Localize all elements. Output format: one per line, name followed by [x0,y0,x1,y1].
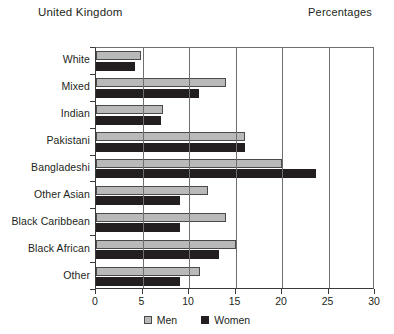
x-axis-tick-label: 5 [139,295,145,307]
chart-legend: Men Women [0,309,394,331]
bar-women [96,62,135,71]
bar-men [96,240,236,249]
bar-group [96,182,373,209]
bar-women [96,223,180,232]
category-label: Pakistani [0,134,90,146]
legend-item-women: Women [201,314,250,326]
category-label: Mixed [0,80,90,92]
category-label: Bangladeshi [0,161,90,173]
category-label: Black Caribbean [0,215,90,227]
legend-swatch-men-icon [144,316,152,324]
bar-men [96,78,226,87]
bar-women [96,250,219,259]
legend-label-men: Men [157,314,177,326]
bar-group [96,209,373,236]
bar-men [96,132,245,141]
x-axis-tick [328,289,329,294]
bar-women [96,196,180,205]
gridline [189,48,190,288]
bar-women [96,169,316,178]
bar-men [96,267,200,276]
plot-area [95,47,374,289]
x-axis-tick [374,289,375,294]
x-axis-tick-label: 0 [92,295,98,307]
category-label: Other Asian [0,188,90,200]
bar-group [96,129,373,156]
category-label: Black African [0,242,90,254]
x-axis-tick-label: 25 [322,295,334,307]
x-axis-tick [235,289,236,294]
legend-item-men: Men [144,314,177,326]
bar-group [96,156,373,183]
bar-group [96,48,373,75]
bar-rows [96,48,373,288]
x-axis-tick [95,289,96,294]
x-axis-tick-label: 20 [275,295,287,307]
bar-group [96,102,373,129]
bar-women [96,143,245,152]
value-axis: 051015202530 [95,289,374,311]
bar-women [96,116,161,125]
bar-men [96,51,141,60]
bar-women [96,277,180,286]
bar-group [96,263,373,290]
category-label: Indian [0,107,90,119]
category-axis-labels: WhiteMixedIndianPakistaniBangladeshiOthe… [0,47,90,289]
bar-women [96,89,199,98]
x-axis-tick [281,289,282,294]
x-axis-tick [188,289,189,294]
bar-men [96,105,163,114]
bar-men [96,186,208,195]
x-axis-tick-label: 15 [229,295,241,307]
category-label: Other [0,269,90,281]
x-axis-tick-label: 30 [368,295,380,307]
gridline [282,48,283,288]
legend-swatch-women-icon [201,316,209,324]
gridline [329,48,330,288]
bar-group [96,236,373,263]
chart-plot-wrapper: WhiteMixedIndianPakistaniBangladeshiOthe… [0,0,394,334]
x-axis-tick [142,289,143,294]
bar-group [96,75,373,102]
legend-label-women: Women [214,314,250,326]
bar-men [96,213,226,222]
category-label: White [0,53,90,65]
x-axis-tick-label: 10 [182,295,194,307]
gridline [236,48,237,288]
gridline [143,48,144,288]
